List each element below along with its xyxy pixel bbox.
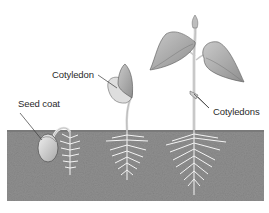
germination-diagram: Seed coat Cotyledon Cotyledons [0, 0, 269, 213]
label-cotyledon: Cotyledon [52, 70, 94, 80]
label-seed-coat: Seed coat [18, 99, 60, 109]
leader-cotyledons-2 [198, 97, 209, 108]
label-cotyledons: Cotyledons [213, 107, 260, 117]
